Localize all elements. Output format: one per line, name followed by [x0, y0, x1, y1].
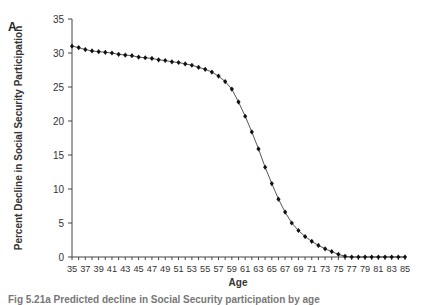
diamond-marker [203, 67, 207, 72]
diamond-marker [77, 45, 81, 50]
diamond-marker [183, 61, 187, 66]
x-tick-label: 37 [80, 264, 90, 274]
diamond-marker [396, 254, 400, 259]
y-tick-label: 0 [58, 252, 64, 263]
y-tick-label: 25 [53, 82, 65, 93]
diamond-marker [117, 52, 121, 57]
x-tick-label: 47 [147, 264, 157, 274]
diamond-marker [403, 254, 407, 259]
diamond-marker [363, 254, 367, 259]
x-tick-label: 41 [107, 264, 117, 274]
x-tick-label: 81 [373, 264, 383, 274]
y-axis-label: Percent Decline in Social Security Parti… [13, 26, 24, 251]
diamond-marker [143, 55, 147, 60]
x-tick-label: 49 [160, 264, 170, 274]
x-tick-label: 85 [400, 264, 410, 274]
x-tick-label: 53 [187, 264, 197, 274]
diamond-marker [137, 54, 141, 59]
diamond-marker [90, 48, 94, 53]
y-tick-label: 35 [53, 14, 65, 25]
x-tick-label: 77 [347, 264, 357, 274]
x-tick-label: 75 [333, 264, 343, 274]
data-series [70, 44, 407, 260]
diamond-marker [376, 254, 380, 259]
diamond-marker [323, 246, 327, 251]
diamond-marker [343, 254, 347, 259]
y-axis: 05101520253035 [53, 14, 72, 263]
x-tick-label: 63 [253, 264, 263, 274]
diamond-marker [243, 114, 247, 119]
x-axis: 3537394143454749515355575961636567697173… [67, 257, 410, 274]
diamond-marker [83, 47, 87, 52]
diamond-marker [330, 249, 334, 254]
diamond-marker [270, 181, 274, 186]
diamond-marker [383, 254, 387, 259]
x-tick-label: 45 [133, 264, 143, 274]
series-line [72, 46, 405, 257]
x-tick-label: 65 [267, 264, 277, 274]
y-tick-label: 30 [53, 48, 65, 59]
diamond-marker [310, 239, 314, 244]
x-tick-label: 71 [307, 264, 317, 274]
x-tick-label: 67 [280, 264, 290, 274]
diamond-marker [170, 59, 174, 64]
x-tick-label: 39 [94, 264, 104, 274]
y-tick-label: 5 [58, 218, 64, 229]
diamond-marker [196, 65, 200, 70]
x-tick-label: 51 [173, 264, 183, 274]
diamond-marker [176, 60, 180, 65]
x-tick-label: 35 [67, 264, 77, 274]
diamond-marker [390, 254, 394, 259]
diamond-marker [263, 165, 267, 170]
diamond-marker [336, 252, 340, 257]
x-axis-label: Age [229, 277, 248, 288]
x-tick-label: 79 [360, 264, 370, 274]
x-tick-label: 73 [320, 264, 330, 274]
x-tick-label: 55 [200, 264, 210, 274]
diamond-marker [250, 129, 254, 134]
diamond-marker [110, 50, 114, 55]
diamond-marker [123, 52, 127, 57]
diamond-marker [103, 50, 107, 55]
x-tick-label: 59 [227, 264, 237, 274]
x-tick-label: 43 [120, 264, 130, 274]
y-tick-label: 20 [53, 116, 65, 127]
x-tick-label: 61 [240, 264, 250, 274]
figure-caption: Fig 5.21a Predicted decline in Social Se… [8, 294, 320, 305]
y-tick-label: 15 [53, 150, 65, 161]
diamond-marker [370, 254, 374, 259]
diamond-marker [130, 53, 134, 58]
x-tick-label: 83 [387, 264, 397, 274]
y-tick-label: 10 [53, 184, 65, 195]
diamond-marker [190, 63, 194, 68]
diamond-marker [97, 49, 101, 54]
diamond-marker [210, 69, 214, 74]
diamond-marker [150, 56, 154, 61]
diamond-marker [316, 243, 320, 248]
diamond-marker [157, 57, 161, 62]
diamond-marker [350, 254, 354, 259]
diamond-marker [256, 146, 260, 151]
x-tick-label: 69 [293, 264, 303, 274]
diamond-marker [163, 58, 167, 63]
diamond-marker [356, 254, 360, 259]
diamond-marker [70, 44, 74, 49]
x-tick-label: 57 [213, 264, 223, 274]
